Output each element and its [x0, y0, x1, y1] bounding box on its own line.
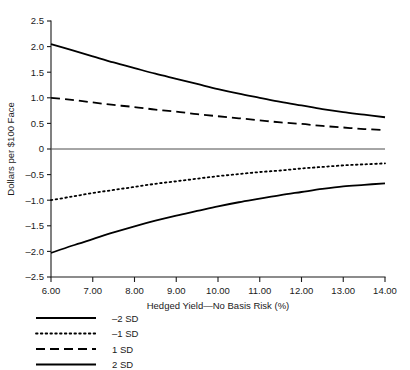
- x-tick-label: 11.00: [248, 285, 271, 296]
- legend-label-1: –2 SD: [112, 313, 139, 324]
- legend-label-2: –1 SD: [112, 328, 139, 339]
- legend-label-3: 1 SD: [112, 344, 133, 355]
- y-tick-label: 1.5: [31, 67, 44, 78]
- x-axis-title: Hedged Yield—No Basis Risk (%): [147, 300, 290, 311]
- line-chart: 2.52.01.51.00.50–0.5–1.0–1.5–2.0–2.56.00…: [0, 0, 410, 370]
- series-line-2-sd: [51, 44, 385, 117]
- y-tick-label: –1.0: [26, 195, 45, 206]
- series-line-1-sd: [51, 98, 385, 130]
- y-tick-label: 0.5: [31, 118, 44, 129]
- y-tick-label: –2.5: [26, 271, 45, 282]
- y-tick-label: 2.0: [31, 41, 44, 52]
- series-line--1-sd: [51, 163, 385, 200]
- x-tick-label: 7.00: [84, 285, 103, 296]
- y-tick-label: –2.0: [26, 246, 45, 257]
- chart-figure: 2.52.01.51.00.50–0.5–1.0–1.5–2.0–2.56.00…: [0, 0, 410, 370]
- x-tick-label: 13.00: [331, 285, 355, 296]
- x-tick-label: 14.00: [373, 285, 397, 296]
- y-tick-label: 2.5: [31, 15, 44, 26]
- y-axis-title: Dollars per $100 Face: [5, 102, 16, 195]
- x-tick-label: 10.00: [206, 285, 230, 296]
- y-tick-label: –0.5: [26, 169, 45, 180]
- y-tick-label: 1.0: [31, 92, 44, 103]
- x-tick-label: 9.00: [167, 285, 186, 296]
- x-tick-label: 6.00: [42, 285, 61, 296]
- y-tick-label: 0: [39, 143, 44, 154]
- x-tick-label: 8.00: [125, 285, 144, 296]
- legend-label-4: 2 SD: [112, 359, 133, 370]
- x-tick-label: 12.00: [290, 285, 314, 296]
- series-line--2-sd: [51, 183, 385, 253]
- y-tick-label: –1.5: [26, 220, 45, 231]
